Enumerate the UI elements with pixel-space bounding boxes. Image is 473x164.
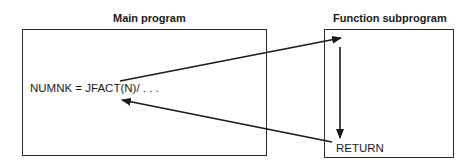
return-arrow (122, 100, 332, 142)
flow-arrows (0, 0, 473, 164)
call-arrow (120, 38, 341, 81)
